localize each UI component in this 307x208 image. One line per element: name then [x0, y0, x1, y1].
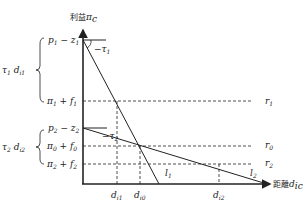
label-di2: di2 — [213, 190, 225, 201]
label-di0: di0 — [134, 190, 146, 201]
label-pi1-f1: π1 + f1 — [46, 96, 77, 107]
label-pi2-f2: π2 + f2 — [46, 159, 77, 170]
label-r2: r2 — [265, 158, 273, 169]
brace-2 — [36, 130, 44, 164]
y-axis-title: 利益πc — [70, 12, 97, 24]
slope-tau1-label: −τ1 — [94, 44, 110, 55]
profit-distance-diagram: 利益πc 距離dic p1 − z1 π1 + f1 p2 − z2 π0 + … — [0, 0, 307, 208]
label-p1-z1: p1 − z1 — [48, 35, 79, 46]
label-r1: r1 — [265, 96, 273, 107]
slope-tau2-label: −τ2 — [102, 131, 119, 142]
brace-1-label: τ1 di1 — [2, 65, 25, 76]
label-p2-z2: p2 − z2 — [48, 123, 80, 134]
brace-1 — [36, 38, 44, 102]
brace-2-label: τ2 di2 — [2, 142, 25, 153]
x-axis-title: 距離dic — [273, 179, 303, 191]
label-pi0-f0: π0 + f0 — [46, 141, 77, 152]
label-l1: l1 — [165, 168, 172, 179]
line-l1 — [83, 40, 159, 184]
label-l2: l2 — [250, 168, 257, 179]
tau1-angle-arc — [87, 40, 91, 48]
label-r0: r0 — [265, 140, 273, 151]
label-di1: di1 — [111, 190, 123, 201]
